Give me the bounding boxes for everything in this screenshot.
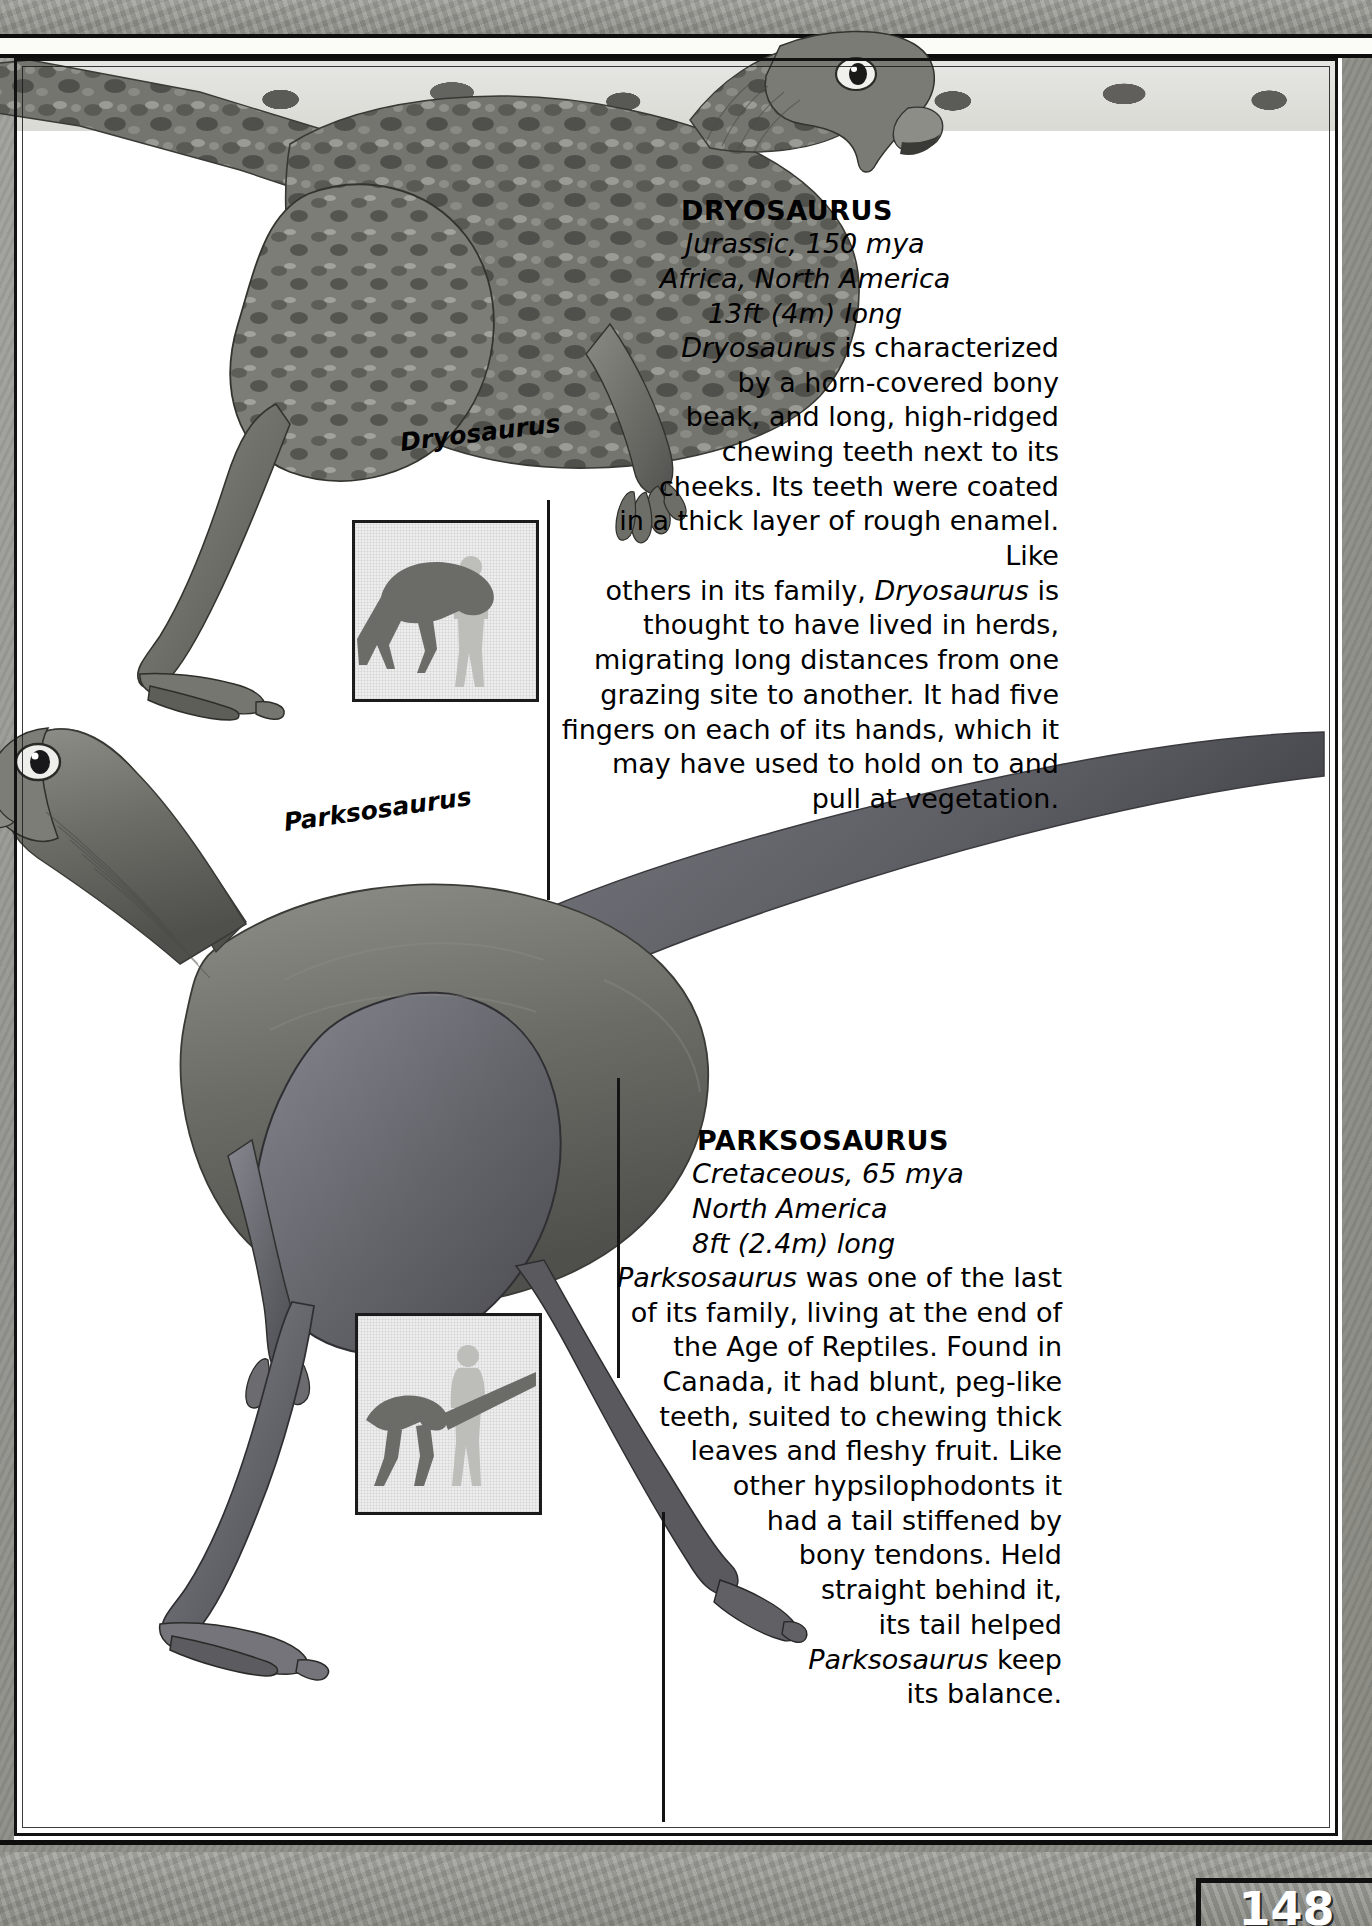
text-line: may have used to hold on to and bbox=[559, 747, 1059, 782]
text-line: fingers on each of its hands, which it bbox=[559, 713, 1059, 748]
book-page: Dryosaurus Parksosaurus DRYOSAURUS Juras… bbox=[0, 0, 1372, 1926]
parksosaurus-description: Parksosaurus was one of the last of its … bbox=[612, 1261, 1062, 1712]
parksosaurus-heading: PARKSOSAURUS bbox=[612, 1126, 1062, 1156]
text-line: had a tail stiffened by bbox=[612, 1504, 1062, 1539]
text-line: beak, and long, high-ridged bbox=[559, 400, 1059, 435]
parksosaurus-size: 8ft (2.4m) long bbox=[612, 1226, 1062, 1261]
parksosaurus-region: North America bbox=[612, 1191, 1062, 1226]
bottom-stone-band bbox=[0, 1852, 1372, 1926]
dryosaurus-description: Dryosaurus is characterized by a horn-co… bbox=[559, 331, 1059, 817]
text-line: Parksosaurus keep bbox=[612, 1643, 1062, 1678]
bottom-rule bbox=[0, 1840, 1372, 1845]
text-line: cheeks. Its teeth were coated bbox=[559, 470, 1059, 505]
scale-comparison-parksosaurus bbox=[355, 1313, 542, 1515]
page-number: 148 bbox=[1196, 1878, 1372, 1926]
text-line: straight behind it, bbox=[612, 1573, 1062, 1608]
column-divider-top bbox=[547, 500, 550, 900]
dinosaur-silhouette bbox=[366, 1372, 536, 1486]
text-line: its tail helped bbox=[612, 1608, 1062, 1643]
dryosaurus-period: Jurassic, 150 mya bbox=[559, 226, 1059, 261]
text-line: others in its family, Dryosaurus is bbox=[559, 574, 1059, 609]
text-line: migrating long distances from one bbox=[559, 643, 1059, 678]
text-line: the Age of Reptiles. Found in bbox=[612, 1330, 1062, 1365]
text-line: by a horn-covered bony bbox=[559, 366, 1059, 401]
text-line: other hypsilophodonts it bbox=[612, 1469, 1062, 1504]
text-line: of its family, living at the end of bbox=[612, 1296, 1062, 1331]
text-line: thought to have lived in herds, bbox=[559, 608, 1059, 643]
text-line: its balance. bbox=[612, 1677, 1062, 1712]
dryosaurus-info-block: DRYOSAURUS Jurassic, 150 mya Africa, Nor… bbox=[559, 196, 1059, 817]
text-line: pull at vegetation. bbox=[559, 782, 1059, 817]
parksosaurus-period: Cretaceous, 65 mya bbox=[612, 1156, 1062, 1191]
text-line: Dryosaurus is characterized bbox=[559, 331, 1059, 366]
text-line: in a thick layer of rough enamel. Like bbox=[559, 504, 1059, 573]
dryosaurus-size: 13ft (4m) long bbox=[559, 296, 1059, 331]
text-line: grazing site to another. It had five bbox=[559, 678, 1059, 713]
text-line: chewing teeth next to its bbox=[559, 435, 1059, 470]
dryosaurus-region: Africa, North America bbox=[559, 261, 1059, 296]
text-line: Parksosaurus was one of the last bbox=[612, 1261, 1062, 1296]
text-line: bony tendons. Held bbox=[612, 1538, 1062, 1573]
scale-comparison-dryosaurus bbox=[352, 520, 539, 702]
text-line: teeth, suited to chewing thick bbox=[612, 1400, 1062, 1435]
parksosaurus-info-block: PARKSOSAURUS Cretaceous, 65 mya North Am… bbox=[612, 1126, 1062, 1712]
text-line: leaves and fleshy fruit. Like bbox=[612, 1434, 1062, 1469]
dryosaurus-heading: DRYOSAURUS bbox=[559, 196, 1059, 226]
text-line: Canada, it had blunt, peg-like bbox=[612, 1365, 1062, 1400]
